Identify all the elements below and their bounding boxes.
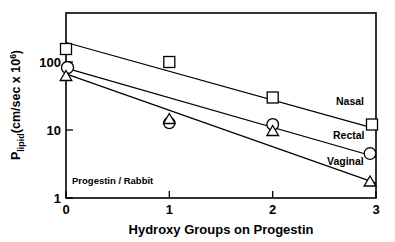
x-axis-title: Hydroxy Groups on Progestin [129,222,314,237]
y-axis-title-base: P [9,152,23,160]
y-tick-label-100: 100 [39,55,61,70]
chart-annotation: Progestin / Rabbit [72,175,154,186]
plot-frame [66,13,376,198]
x-tick-label-2: 2 [269,202,276,217]
x-tick-label-3: 3 [372,202,379,217]
y-axis-title-units-open: (cm/sec x 10 [9,59,23,133]
series-labels: Nasal Rectal Vaginal [327,95,365,167]
y-axis-title-units-close: ) [9,50,23,54]
progestin-permeability-chart: 100 10 1 0 1 2 3 Hydroxy Groups on Proge… [0,0,395,242]
x-tick-label-0: 0 [62,202,69,217]
series-nasal-markers [61,44,378,131]
y-tick-label-1: 1 [54,191,61,206]
x-axis-ticks [66,191,376,198]
data-point-rectal-3 [364,148,376,160]
data-point-nasal-3 [367,119,378,130]
data-point-vaginal-3 [364,176,376,186]
y-axis-tick-labels: 100 10 1 [39,55,61,206]
series-rectal-markers [62,62,376,160]
trend-line-nasal [66,43,376,129]
y-tick-label-10: 10 [47,123,61,138]
y-axis-title-subscript: lipid [16,133,26,152]
series-label-rectal: Rectal [333,129,365,141]
data-point-rectal-0 [62,62,74,74]
data-point-nasal-2 [267,92,278,103]
svg-text:Plipid(cm/sec x 106): Plipid(cm/sec x 106) [8,50,26,160]
x-tick-label-1: 1 [166,202,173,217]
trend-line-rectal [66,68,376,157]
y-axis-title: Plipid(cm/sec x 106) [8,50,26,160]
series-label-vaginal: Vaginal [327,155,364,167]
x-axis-tick-labels: 0 1 2 3 [62,202,379,217]
chart-figure: 100 10 1 0 1 2 3 Hydroxy Groups on Proge… [0,0,395,242]
data-point-nasal-1 [164,57,175,68]
data-point-nasal-0 [61,44,72,55]
series-label-nasal: Nasal [336,95,364,107]
